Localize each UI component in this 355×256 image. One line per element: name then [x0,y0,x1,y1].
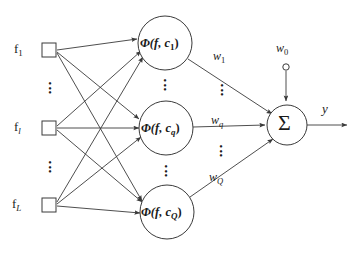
bias-circle[interactable] [283,64,289,70]
sum-node-symbol: Σ [278,112,291,134]
edge-inL-hq [57,137,141,204]
input-to-hidden-edges [57,39,143,213]
edge-in1-hQ [57,53,142,201]
weight-label-Q: wQ [209,171,223,185]
hidden-to-sum-edges [188,59,273,197]
weight-label-q: wq [211,114,223,128]
input-ellipsis-top: ••• [43,82,57,96]
edge-inL-hQ [57,206,140,213]
input-square-L[interactable] [42,198,56,212]
input-label-l: fl [14,120,21,136]
hidden-node-1-label: Φ(f, c1) [140,37,179,52]
bias-group [283,64,289,101]
rbf-network-diagram: f1 fl fL ••• ••• Φ(f, c1) Φ(f, cq) Φ(f, … [0,0,355,256]
hidden-node-Q-label: Φ(f, cQ) [141,206,182,221]
weight-ellipsis-bottom: ••• [215,145,227,159]
input-label-L: fL [12,197,21,213]
input-ellipsis-bottom: ••• [43,161,57,175]
hidden-ellipsis-top: ••• [158,79,172,93]
edge-h1-sum [188,59,272,114]
output-label-y: y [322,102,328,115]
hidden-ellipsis-bottom: ••• [159,165,173,179]
input-square-l[interactable] [42,121,56,135]
input-square-1[interactable] [42,43,56,57]
edge-in1-hq [57,52,139,119]
weight-ellipsis-top: ••• [216,84,228,98]
edge-hq-sum [193,125,265,127]
input-label-1: f1 [14,42,23,58]
edge-inl-hQ [57,130,142,202]
hidden-node-q-label: Φ(f, cq) [141,122,180,137]
edge-in1-h1 [57,39,137,50]
edge-hQ-sum [190,139,273,197]
weight-label-1: w1 [213,50,225,64]
bias-label-w0: w0 [276,42,288,56]
input-nodes-group [42,43,56,212]
